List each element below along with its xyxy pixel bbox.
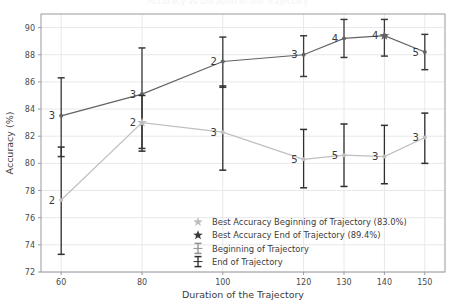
data-point-beginning [423, 136, 427, 140]
point-annotation-beginning: 2 [130, 117, 136, 128]
y-tick-label: 86 [25, 78, 35, 87]
data-point-end [423, 50, 427, 54]
point-annotation-end: 4 [372, 30, 378, 41]
chart-canvas: 727476788082848688906080100120130140150D… [0, 0, 456, 306]
series-line-beginning [61, 123, 425, 200]
legend-star-marker [193, 230, 203, 239]
y-axis-label: Accuracy (%) [4, 112, 15, 175]
x-tick-label: 130 [336, 278, 351, 287]
y-tick-label: 74 [25, 241, 35, 250]
x-tick-label: 100 [215, 278, 230, 287]
y-tick-label: 88 [25, 51, 35, 60]
point-annotation-beginning: 2 [49, 195, 55, 206]
error-bar-beginning [219, 86, 226, 170]
error-bar-beginning [381, 125, 388, 183]
x-axis-label: Duration of the Trajectory [182, 289, 304, 300]
x-tick-label: 150 [417, 278, 432, 287]
series-line-end [61, 36, 425, 116]
data-point-beginning [342, 153, 346, 157]
x-tick-label: 60 [56, 278, 66, 287]
point-annotation-end: 3 [49, 110, 55, 121]
y-tick-label: 90 [25, 24, 35, 33]
legend-star-marker [193, 217, 203, 226]
point-annotation-end: 2 [210, 56, 216, 67]
chart-title: Accuracy vs Duration of the Trajectory [0, 0, 456, 6]
y-tick-label: 72 [25, 268, 35, 277]
y-tick-label: 82 [25, 132, 35, 141]
point-annotation-end: 3 [291, 49, 297, 60]
point-annotation-beginning: 3 [210, 127, 216, 138]
x-tick-label: 120 [296, 278, 311, 287]
data-point-beginning [221, 130, 225, 134]
point-annotation-end: 5 [412, 47, 418, 58]
point-annotation-end: 3 [130, 89, 136, 100]
y-tick-label: 84 [25, 105, 35, 114]
data-point-beginning [302, 157, 306, 161]
data-point-end [302, 53, 306, 57]
x-tick-label: 80 [137, 278, 147, 287]
data-point-end [59, 114, 63, 118]
legend-label: Best Accuracy Beginning of Trajectory (8… [212, 217, 407, 227]
data-point-beginning [382, 155, 386, 159]
point-annotation-beginning: 5 [332, 150, 338, 161]
y-tick-label: 80 [25, 159, 35, 168]
point-annotation-end: 4 [332, 33, 338, 44]
legend-label: Best Accuracy End of Trajectory (89.4%) [212, 230, 381, 240]
data-point-end [342, 36, 346, 40]
x-tick-label: 140 [377, 278, 392, 287]
chart-figure: Accuracy vs Duration of the Trajectory 7… [0, 0, 456, 306]
point-annotation-beginning: 3 [412, 132, 418, 143]
point-annotation-beginning: 5 [291, 154, 297, 165]
legend-label: End of Trajectory [212, 257, 283, 267]
point-annotation-beginning: 3 [372, 151, 378, 162]
y-tick-label: 76 [25, 214, 35, 223]
y-tick-label: 78 [25, 187, 35, 196]
legend-label: Beginning of Trajectory [212, 244, 309, 254]
data-point-end [221, 60, 225, 64]
data-point-beginning [59, 198, 63, 202]
